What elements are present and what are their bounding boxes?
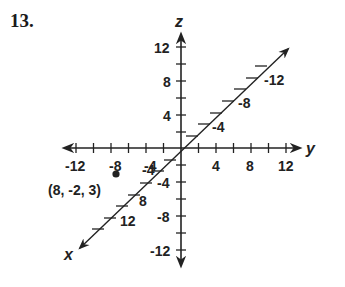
3d-coordinate-diagram: -12 -8 -4 4 8 12 y 12 8 4 -4 -8 -12 z: [0, 0, 345, 287]
z-tick-label: -8: [157, 209, 170, 225]
z-axis: 12 8 4 -4 -8 -12 z: [150, 13, 186, 266]
x-tick-label-upper: -12: [264, 72, 284, 88]
z-tick-label: -4: [157, 175, 170, 191]
y-tick-label: 12: [278, 158, 294, 174]
z-tick-label: 4: [163, 108, 171, 124]
z-tick-label: -12: [150, 243, 170, 259]
point-label: (8, -2, 3): [48, 182, 101, 198]
z-tick-label: 8: [163, 74, 171, 90]
y-axis: -12 -8 -4 4 8 12 y: [64, 140, 316, 174]
y-tick-label: 8: [246, 158, 254, 174]
x-tick-label: 12: [120, 213, 136, 229]
x-tick-label: 8: [139, 193, 147, 209]
z-tick-label: 12: [154, 40, 170, 56]
x-axis: -4 -8 -12 -4 8 12 x: [63, 49, 288, 263]
y-axis-label: y: [305, 140, 316, 157]
x-tick-label: -4: [142, 162, 155, 178]
x-tick-label-upper: -8: [238, 95, 251, 111]
y-tick-label: -12: [65, 158, 85, 174]
z-axis-label: z: [174, 13, 183, 30]
x-axis-label: x: [63, 246, 74, 263]
plotted-point: [112, 170, 119, 177]
x-tick-label-upper: -4: [212, 119, 225, 135]
y-tick-label: 4: [212, 158, 220, 174]
